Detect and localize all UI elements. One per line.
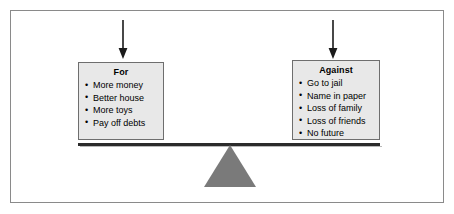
down-arrow-icon-left xyxy=(116,20,130,60)
list-item: More toys xyxy=(85,104,163,117)
list-item: Loss of family xyxy=(299,102,379,115)
against-panel-title: Against xyxy=(293,64,379,76)
fulcrum-triangle xyxy=(204,145,256,187)
list-item: Better house xyxy=(85,92,163,105)
against-panel: Against Go to jail Name in paper Loss of… xyxy=(292,60,380,140)
list-item: Name in paper xyxy=(299,90,379,103)
list-item: Pay off debts xyxy=(85,117,163,130)
against-panel-list: Go to jail Name in paper Loss of family … xyxy=(293,77,379,140)
list-item: Go to jail xyxy=(299,77,379,90)
down-arrow-icon-right xyxy=(326,20,340,60)
for-panel-title: For xyxy=(79,66,163,78)
for-panel-list: More money Better house More toys Pay of… xyxy=(79,79,163,129)
balance-scale-diagram: For More money Better house More toys Pa… xyxy=(0,0,454,214)
list-item: Loss of friends xyxy=(299,115,379,128)
list-item: More money xyxy=(85,79,163,92)
for-panel: For More money Better house More toys Pa… xyxy=(78,62,164,140)
list-item: No future xyxy=(299,127,379,140)
